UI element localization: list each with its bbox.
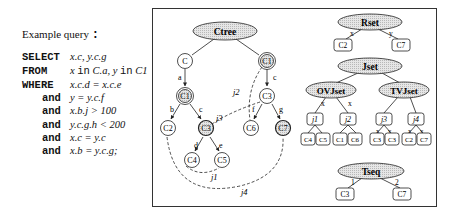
svg-text:C7: C7 xyxy=(397,41,406,50)
svg-text:C2: C2 xyxy=(339,41,348,50)
edge-label-f: f xyxy=(252,105,255,114)
svg-text:C2: C2 xyxy=(405,136,414,144)
svg-text:C1: C1 xyxy=(336,136,345,144)
ovjset-label-x-left: x xyxy=(321,99,325,108)
svg-text:C3: C3 xyxy=(201,124,210,133)
svg-text:j4: j4 xyxy=(412,115,419,124)
svg-text:C6: C6 xyxy=(246,124,255,133)
tseq-edges xyxy=(348,178,400,188)
edge-label-c-right: c xyxy=(273,73,277,82)
svg-text:C2: C2 xyxy=(163,124,172,133)
ovjset-label-x-right: x xyxy=(348,99,352,108)
join-label-j1: j1 xyxy=(210,172,218,182)
svg-text:C1: C1 xyxy=(180,92,189,101)
svg-text:C5: C5 xyxy=(217,156,226,165)
svg-text:C4: C4 xyxy=(304,136,313,144)
svg-text:Tseq: Tseq xyxy=(362,167,381,177)
join-label-j2: j2 xyxy=(232,87,240,97)
edge-label-c-left: c xyxy=(199,105,203,114)
join-label-j3: j3 xyxy=(215,113,223,123)
svg-text:Jset: Jset xyxy=(362,62,379,72)
svg-text:C7: C7 xyxy=(398,190,407,199)
edge-label-g: g xyxy=(279,105,283,114)
edge-label-b: b xyxy=(170,105,174,114)
svg-text:C7: C7 xyxy=(420,136,429,144)
jset-leaves: C4 C5 C1 C6 C3 C3 C2 C7 xyxy=(301,133,431,145)
edge-label-d: d xyxy=(194,141,198,150)
tseq-label-1: 1 xyxy=(351,178,355,187)
svg-text:j3: j3 xyxy=(380,115,387,124)
edge-label-e: e xyxy=(219,141,223,150)
rset-label-x: x xyxy=(350,29,354,38)
rset-label-y: y xyxy=(389,29,393,38)
svg-text:C3: C3 xyxy=(373,136,382,144)
svg-text:j2: j2 xyxy=(344,115,351,124)
join-label-j4: j4 xyxy=(240,187,248,197)
svg-text:C: C xyxy=(182,57,187,66)
svg-text:C6: C6 xyxy=(351,136,360,144)
svg-text:C4: C4 xyxy=(187,156,196,165)
ctree-root-label: Ctree xyxy=(214,27,237,37)
svg-text:C3: C3 xyxy=(341,190,350,199)
structure-diagram: Ctree C C1 C1 C3 C2 C3 C6 C7 C4 C5 a c b… xyxy=(0,0,459,215)
svg-text:C5: C5 xyxy=(319,136,328,144)
tseq-label-2: 2 xyxy=(395,178,399,187)
svg-text:Rset: Rset xyxy=(361,18,380,28)
svg-text:C7: C7 xyxy=(278,124,287,133)
edge-label-a: a xyxy=(178,73,182,82)
svg-text:C3: C3 xyxy=(388,136,397,144)
svg-text:OVJset: OVJset xyxy=(317,86,346,96)
svg-text:j1: j1 xyxy=(311,115,318,124)
svg-text:TVJset: TVJset xyxy=(390,86,418,96)
svg-text:C1: C1 xyxy=(262,57,271,66)
svg-text:C3: C3 xyxy=(262,92,271,101)
